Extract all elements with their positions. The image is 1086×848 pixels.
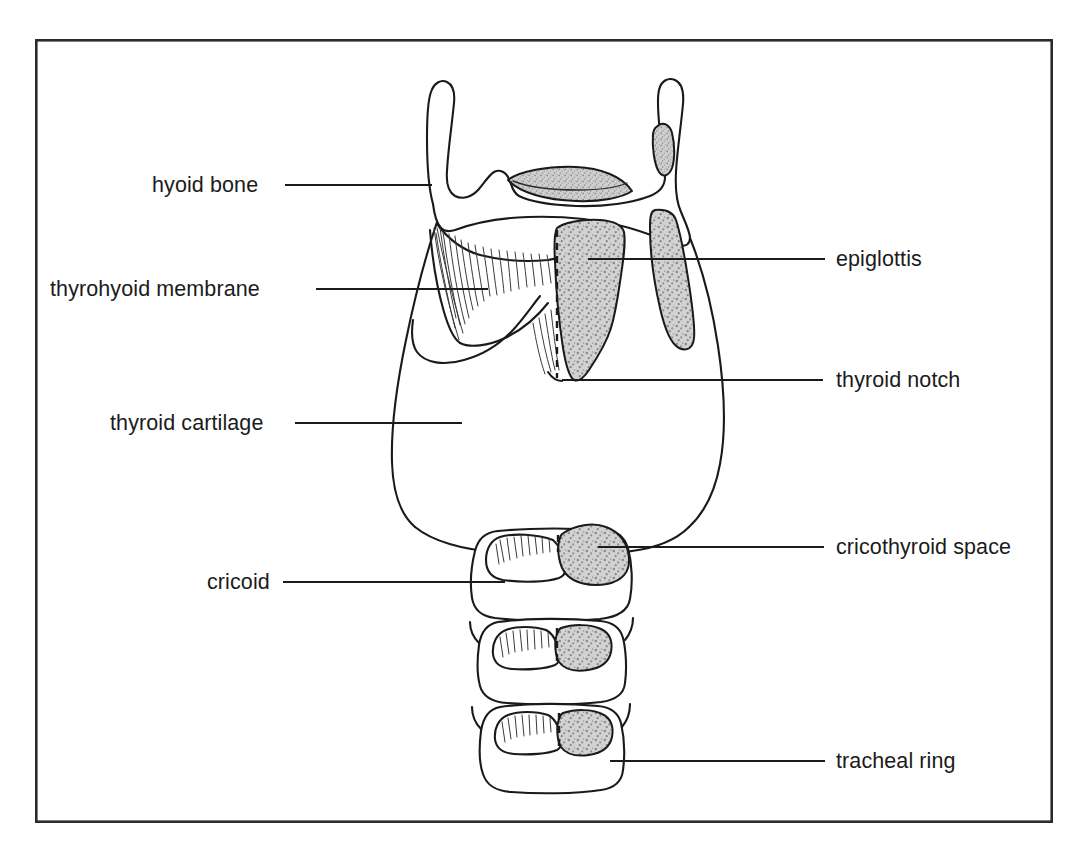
tracheal-ring-2 bbox=[480, 704, 624, 793]
label-thyroid-notch-text: thyroid notch bbox=[836, 368, 960, 392]
label-tracheal-ring-text: tracheal ring bbox=[836, 749, 956, 773]
anatomy-diagram: hyoid bone thyrohyoid membrane thyroid c… bbox=[0, 0, 1086, 848]
label-cricoid-text: cricoid bbox=[207, 570, 270, 594]
label-hyoid-bone-text: hyoid bone bbox=[152, 173, 258, 197]
label-epiglottis-text: epiglottis bbox=[836, 247, 922, 271]
cricothyroid-space bbox=[558, 525, 629, 585]
tracheal-ring-1 bbox=[478, 619, 626, 705]
label-cricothyroid-space-text: cricothyroid space bbox=[836, 535, 1011, 559]
label-thyrohyoid-membrane-text: thyrohyoid membrane bbox=[50, 277, 260, 301]
figure-root: hyoid bone thyrohyoid membrane thyroid c… bbox=[0, 0, 1086, 848]
label-thyroid-cartilage-text: thyroid cartilage bbox=[110, 411, 263, 435]
